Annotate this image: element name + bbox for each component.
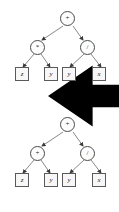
left-operator-plus: +: [30, 146, 45, 161]
left-operator-label: +: [36, 150, 40, 157]
edge-root-to-left: [42, 132, 63, 146]
edge-root-to-left: [42, 26, 63, 40]
edge-left-to-leaf-y1: [41, 160, 50, 173]
edge-right-to-leaf-y2: [70, 160, 84, 173]
edge-root-to-right: [73, 132, 83, 146]
left-operator-times: *: [30, 40, 45, 55]
leaf-z: z: [15, 67, 29, 81]
leaf-y-2: y: [62, 67, 76, 81]
leaf-y-2-label: y: [67, 71, 70, 78]
leaf-y-1-label: y: [49, 177, 52, 184]
edge-right-to-leaf-x: [91, 160, 101, 173]
right-operator-label: /: [87, 150, 89, 157]
leaf-y-2-label: y: [67, 177, 70, 184]
top-expression-tree: + * / z y y x: [0, 0, 119, 106]
leaf-x: x: [92, 173, 106, 187]
leaf-x-label: x: [97, 71, 100, 78]
root-operator-label: +: [66, 15, 70, 22]
leaf-x-label: x: [97, 177, 100, 184]
left-operator-label: *: [36, 44, 40, 51]
edge-left-to-leaf-z: [23, 160, 34, 173]
root-operator-plus: +: [60, 11, 75, 26]
root-operator-label: +: [66, 121, 70, 128]
root-operator-plus: +: [60, 117, 75, 132]
right-operator-divide: /: [80, 146, 95, 161]
figure-canvas: + * / z y y x: [0, 0, 119, 212]
leaf-z: z: [15, 173, 29, 187]
leaf-z-label: z: [21, 177, 24, 184]
edge-left-to-leaf-z: [23, 54, 34, 67]
leaf-y-2: y: [62, 173, 76, 187]
leaf-x: x: [92, 67, 106, 81]
leaf-y-1: y: [44, 173, 58, 187]
leaf-y-1: y: [44, 67, 58, 81]
bottom-expression-tree: + + / z y y x: [0, 106, 119, 212]
leaf-z-label: z: [21, 71, 24, 78]
edge-root-to-right: [73, 26, 83, 40]
leaf-y-1-label: y: [49, 71, 52, 78]
